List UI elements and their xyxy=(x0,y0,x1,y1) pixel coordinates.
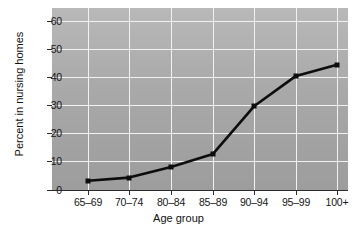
y-axis-title: Percent in nursing homes xyxy=(13,9,25,179)
data-point-marker xyxy=(294,73,299,78)
data-point-marker xyxy=(86,178,91,183)
nursing-home-line-chart: 60 50 40 30 20 10 0 65–69 70–74 80–84 85… xyxy=(0,0,357,239)
data-point-marker xyxy=(252,104,257,109)
data-series-line xyxy=(0,0,357,239)
data-point-marker xyxy=(169,164,174,169)
data-point-marker xyxy=(211,151,216,156)
x-axis-title: Age group xyxy=(0,212,357,224)
data-point-marker xyxy=(335,62,340,67)
data-point-marker xyxy=(127,175,132,180)
